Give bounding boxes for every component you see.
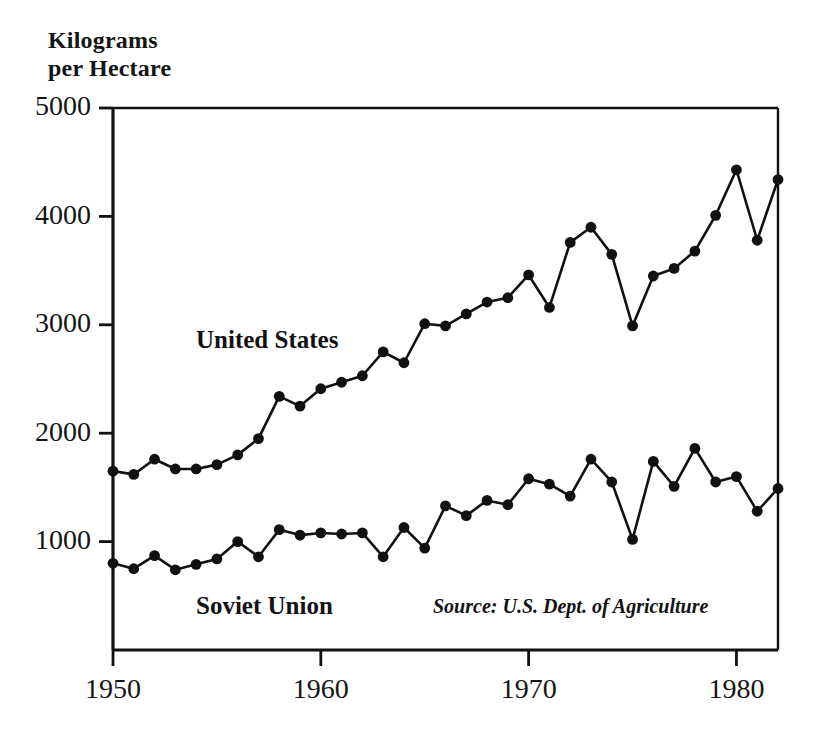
source-note: Source: U.S. Dept. of Agriculture [433,595,709,618]
data-point [191,559,202,570]
data-point [523,270,534,281]
data-point [253,551,264,562]
series-united-states [108,164,784,479]
data-point [710,477,721,488]
y-tick-labels: 10002000300040005000 [35,90,91,555]
data-point [149,454,160,465]
data-point [336,377,347,388]
data-point [440,320,451,331]
data-point [274,524,285,535]
data-point [773,174,784,185]
y-tick-label: 2000 [35,416,91,447]
data-point [502,292,513,303]
data-point [482,297,493,308]
y-tick-label: 1000 [35,524,91,555]
y-tick-label: 3000 [35,307,91,338]
data-point [482,495,493,506]
data-point [773,483,784,494]
data-point [648,271,659,282]
data-point [544,479,555,490]
data-point [108,558,119,569]
data-point [128,563,139,574]
data-point [128,469,139,480]
series-label-soviet-union: Soviet Union [196,592,333,619]
data-point [419,543,430,554]
data-point [440,500,451,511]
data-point [149,550,160,561]
data-point [212,459,223,470]
data-point [170,564,181,575]
data-point [689,246,700,257]
plot-area-wrapper: 10002000300040005000 1950196019701980 Un… [0,0,823,729]
data-point [606,249,617,260]
data-point [586,454,597,465]
data-point [336,529,347,540]
data-point [627,320,638,331]
plot-frame [113,108,778,650]
x-tick-label: 1950 [85,673,141,704]
line-chart: 10002000300040005000 1950196019701980 Un… [0,0,823,729]
data-point [399,357,410,368]
data-point [565,491,576,502]
data-point [191,464,202,475]
data-point [419,318,430,329]
data-point [502,499,513,510]
data-point [232,536,243,547]
data-point [544,302,555,313]
y-tick-label: 4000 [35,199,91,230]
axis-ticks [99,108,736,666]
x-tick-label: 1980 [708,673,764,704]
data-point [752,506,763,517]
data-point [274,391,285,402]
x-tick-labels: 1950196019701980 [85,673,764,704]
data-point [461,309,472,320]
chart-page: Kilograms per Hectare 100020003000400050… [0,0,823,729]
x-tick-label: 1960 [293,673,349,704]
data-point [170,464,181,475]
data-point [315,528,326,539]
data-point [295,530,306,541]
data-point [586,222,597,233]
data-series-group [108,164,784,575]
x-tick-label: 1970 [501,673,557,704]
data-point [108,466,119,477]
data-point [357,528,368,539]
data-point [378,551,389,562]
data-point [752,235,763,246]
data-point [731,471,742,482]
y-tick-label: 5000 [35,90,91,121]
data-point [212,554,223,565]
data-point [253,433,264,444]
data-point [627,534,638,545]
data-point [606,477,617,488]
data-point [315,383,326,394]
data-point [461,510,472,521]
data-point [648,456,659,467]
data-point [523,473,534,484]
data-point [731,164,742,175]
chart-annotations: United States Soviet Union Source: U.S. … [196,326,709,619]
series-label-united-states: United States [196,326,339,353]
data-point [565,237,576,248]
data-point [399,522,410,533]
data-point [357,370,368,381]
data-point [295,401,306,412]
data-point [232,449,243,460]
series-soviet-union [108,443,784,575]
data-point [669,481,680,492]
data-point [710,210,721,221]
data-point [378,347,389,358]
data-point [689,443,700,454]
data-point [669,263,680,274]
